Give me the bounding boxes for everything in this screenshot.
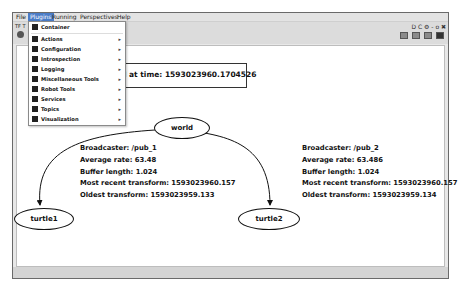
node-label: turtle1 bbox=[30, 215, 57, 223]
menu-item-misc-tools[interactable]: Miscellaneous Tools▸ bbox=[29, 74, 125, 84]
node-world[interactable]: world bbox=[154, 117, 210, 139]
folder-icon bbox=[32, 56, 38, 62]
edge2-average-rate: Average rate: 63.486 bbox=[302, 155, 457, 167]
folder-icon bbox=[32, 46, 38, 52]
plugins-dropdown: Container Actions▸ Configuration▸ Intros… bbox=[28, 21, 126, 126]
menu-item-visualization[interactable]: Visualization▸ bbox=[29, 114, 125, 124]
submenu-arrow-icon: ▸ bbox=[118, 44, 121, 54]
folder-icon bbox=[32, 96, 38, 102]
edge2-buffer-length: Buffer length: 1.024 bbox=[302, 167, 457, 179]
node-turtle2[interactable]: turtle2 bbox=[238, 208, 300, 230]
menu-item-topics[interactable]: Topics▸ bbox=[29, 104, 125, 114]
node-label: turtle2 bbox=[255, 215, 282, 223]
folder-icon bbox=[32, 24, 38, 30]
submenu-arrow-icon: ▸ bbox=[118, 114, 121, 124]
edge1-buffer-length: Buffer length: 1.024 bbox=[80, 167, 235, 179]
menu-item-robot-tools[interactable]: Robot Tools▸ bbox=[29, 84, 125, 94]
edge1-average-rate: Average rate: 63.48 bbox=[80, 155, 235, 167]
submenu-arrow-icon: ▸ bbox=[118, 54, 121, 64]
menu-item-logging[interactable]: Logging▸ bbox=[29, 64, 125, 74]
edge1-most-recent: Most recent transform: 1593023960.157 bbox=[80, 178, 235, 190]
menu-item-configuration[interactable]: Configuration▸ bbox=[29, 44, 125, 54]
folder-icon bbox=[32, 76, 38, 82]
edge2-most-recent: Most recent transform: 1593023960.157 bbox=[302, 178, 457, 190]
edge2-broadcaster: Broadcaster: /pub_2 bbox=[302, 143, 457, 155]
menu-item-container[interactable]: Container bbox=[29, 22, 125, 32]
folder-icon bbox=[32, 66, 38, 72]
folder-icon bbox=[32, 86, 38, 92]
node-label: world bbox=[171, 124, 193, 132]
edge1-oldest: Oldest transform: 1593023959.133 bbox=[80, 190, 235, 202]
menu-item-actions[interactable]: Actions▸ bbox=[29, 34, 125, 44]
submenu-arrow-icon: ▸ bbox=[118, 74, 121, 84]
recorded-time-text: d at time: 1593023960.1704526 bbox=[121, 70, 256, 79]
edge2-oldest: Oldest transform: 1593023959.134 bbox=[302, 190, 457, 202]
menu-item-services[interactable]: Services▸ bbox=[29, 94, 125, 104]
folder-icon bbox=[32, 106, 38, 112]
folder-icon bbox=[32, 116, 38, 122]
submenu-arrow-icon: ▸ bbox=[118, 84, 121, 94]
edge1-broadcaster: Broadcaster: /pub_1 bbox=[80, 143, 235, 155]
submenu-arrow-icon: ▸ bbox=[118, 94, 121, 104]
folder-icon bbox=[32, 36, 38, 42]
submenu-arrow-icon: ▸ bbox=[118, 104, 121, 114]
submenu-arrow-icon: ▸ bbox=[118, 34, 121, 44]
edge2-info: Broadcaster: /pub_2 Average rate: 63.486… bbox=[302, 143, 457, 202]
menu-item-introspection[interactable]: Introspection▸ bbox=[29, 54, 125, 64]
node-turtle1[interactable]: turtle1 bbox=[14, 208, 74, 230]
submenu-arrow-icon: ▸ bbox=[118, 64, 121, 74]
edge1-info: Broadcaster: /pub_1 Average rate: 63.48 … bbox=[80, 143, 235, 202]
